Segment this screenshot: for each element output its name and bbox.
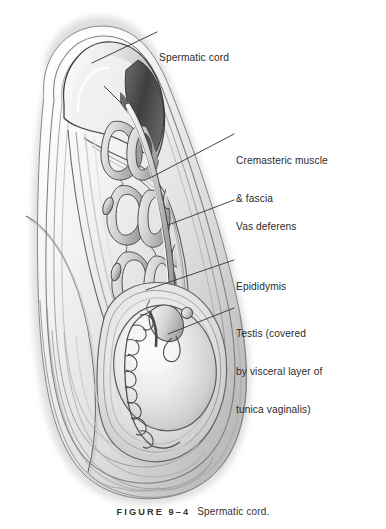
label-testis: Testis (covered by visceral layer of tun… xyxy=(236,303,322,442)
figure-title: Spermatic cord. xyxy=(197,506,269,517)
label-spermatic-cord: Spermatic cord xyxy=(159,27,229,90)
label-vas-deferens: Vas deferens xyxy=(236,196,297,259)
figure-number: FIGURE 9–4 xyxy=(117,507,191,517)
label-testis-line2: by visceral layer of xyxy=(236,366,322,379)
label-testis-line1: Testis (covered xyxy=(236,328,322,341)
label-vas-deferens-line1: Vas deferens xyxy=(236,221,297,234)
label-testis-line3: tunica vaginalis) xyxy=(236,404,322,417)
label-spermatic-cord-line1: Spermatic cord xyxy=(159,52,229,65)
figure-container: Spermatic cord Cremasteric muscle & fasc… xyxy=(0,0,386,529)
figure-caption: FIGURE 9–4Spermatic cord. xyxy=(0,506,386,517)
label-epididymis-line1: Epididymis xyxy=(236,281,286,294)
label-cremasteric-line1: Cremasteric muscle xyxy=(236,155,328,168)
